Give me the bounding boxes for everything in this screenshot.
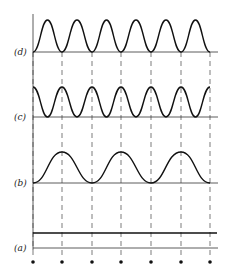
label-a: (a) bbox=[14, 243, 27, 253]
label-d: (d) bbox=[14, 47, 27, 57]
sample-lines bbox=[33, 52, 210, 258]
waveform-diagram: (d) (c) (b) (a) bbox=[0, 0, 227, 273]
waveform-b bbox=[33, 152, 210, 183]
waveform-d bbox=[33, 20, 210, 52]
sample-dots bbox=[31, 260, 212, 264]
waveform-c bbox=[33, 87, 210, 117]
label-c: (c) bbox=[14, 112, 27, 122]
label-b: (b) bbox=[14, 178, 27, 188]
baselines bbox=[33, 52, 218, 248]
